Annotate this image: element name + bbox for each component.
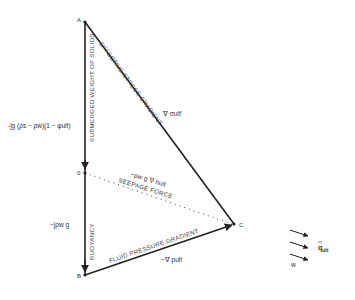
flux-label: qult [318, 244, 329, 253]
expr-submerged-weight: -ĵg (ρs − ρw)(1 − φult) [8, 122, 71, 130]
expr-fluid-pressure: −∇ pult [161, 256, 182, 264]
label-c: C [239, 222, 244, 228]
expr-buoyancy: −ĵρw g [50, 221, 69, 229]
point-c [232, 222, 235, 225]
flux-small-mark: w [290, 261, 296, 268]
point-o [83, 171, 86, 174]
flux-arrow-3 [290, 254, 308, 260]
flux-arrow-2 [290, 242, 308, 248]
edge-bc [85, 225, 232, 275]
flux-arrow-1 [290, 230, 308, 236]
label-fluid-pressure: FLUID PRESSURE GRADIENT [108, 227, 199, 264]
flux-legend: qult w [290, 230, 329, 268]
label-effective-stress: EFFECTIVE STRESS GRADIENT [98, 40, 164, 126]
point-b [83, 273, 86, 276]
label-a: A [77, 17, 81, 23]
expr-effective-stress: ∇ σult' [162, 110, 182, 117]
label-submerged-weight: SUBMERGED WEIGHT OF SOLIDS [88, 33, 95, 142]
label-buoyancy: BUOYANCY [88, 223, 95, 260]
force-polygon-diagram: A 0 B C SUBMERGED WEIGHT OF SOLIDS BUOYA… [0, 0, 355, 300]
label-o: 0 [77, 170, 81, 176]
point-a [83, 20, 86, 23]
label-b: B [77, 273, 81, 279]
